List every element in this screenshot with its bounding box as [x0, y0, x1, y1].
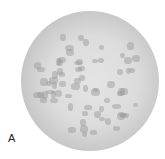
surface-spot	[83, 39, 89, 46]
figure-panel: A	[0, 0, 165, 159]
surface-spot	[82, 111, 88, 116]
surface-spot	[104, 98, 111, 102]
surface-spot	[117, 112, 124, 120]
surface-spot	[107, 81, 115, 88]
surface-spot	[83, 85, 88, 92]
surface-spot	[112, 104, 121, 109]
surface-spot	[90, 130, 97, 135]
surface-spot	[60, 34, 66, 41]
surface-spot	[105, 118, 111, 125]
surface-spot	[82, 132, 87, 137]
surface-spot	[113, 126, 120, 131]
surface-spot	[129, 68, 135, 73]
surface-spot	[124, 57, 132, 64]
surface-spot	[132, 55, 140, 62]
spherical-grain	[21, 11, 159, 151]
surface-spot	[50, 98, 58, 103]
surface-spot	[117, 69, 124, 75]
surface-spot	[71, 83, 80, 89]
surface-spot	[40, 78, 48, 86]
surface-spot	[99, 106, 104, 112]
surface-spot	[127, 42, 134, 50]
surface-spot	[59, 72, 65, 77]
surface-spot	[84, 105, 92, 110]
surface-spot	[68, 103, 73, 111]
surface-spot	[99, 45, 104, 50]
surface-spot	[66, 49, 74, 56]
surface-spot	[49, 77, 58, 84]
surface-spot	[68, 127, 75, 133]
surface-spot	[55, 90, 62, 98]
surface-spot	[75, 67, 82, 71]
surface-spot	[33, 92, 42, 98]
surface-spot	[133, 103, 138, 107]
surface-spot	[65, 94, 72, 98]
surface-spot	[59, 81, 66, 87]
surface-spot	[80, 119, 86, 126]
panel-label: A	[8, 132, 15, 144]
surface-spot	[98, 58, 104, 64]
surface-spot	[118, 88, 125, 96]
